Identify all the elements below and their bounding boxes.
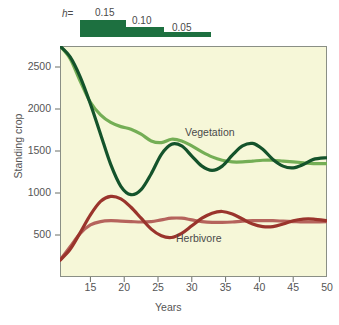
plot-svg [0,0,339,325]
y-tick-label: 1000 [9,186,51,198]
y-tick-label: 500 [9,228,51,240]
chart-container: Standing crop Years Vegetation Herbivore… [0,0,339,325]
x-tick-label: 25 [143,281,173,293]
x-tick-label: 50 [312,281,339,293]
x-axis-title: Years [155,301,181,313]
x-tick-label: 15 [75,281,105,293]
x-tick-label: 45 [278,281,308,293]
annotation-vegetation: Vegetation [185,126,235,138]
y-tick-label: 2500 [9,60,51,72]
x-tick-label: 20 [109,281,139,293]
x-tick-label: 35 [211,281,241,293]
x-tick-label: 30 [177,281,207,293]
annotation-herbivore: Herbivore [176,232,222,244]
x-tick-label: 40 [244,281,274,293]
y-tick-label: 2000 [9,102,51,114]
y-tick-label: 1500 [9,144,51,156]
